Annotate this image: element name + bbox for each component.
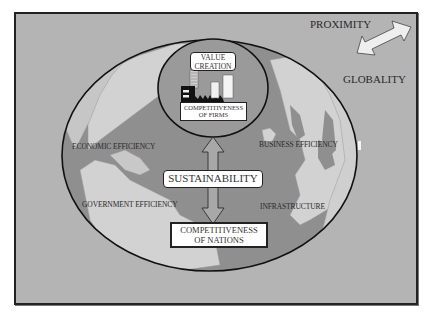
nations-line2: OF NATIONS	[172, 236, 266, 246]
value-creation-box: VALUE CREATION	[190, 52, 236, 71]
economic-efficiency-label: ECONOMIC EFFICIENCY	[72, 142, 155, 151]
business-efficiency-label: BUSINESS EFFICIENCY	[259, 140, 338, 149]
value-creation-line2: CREATION	[191, 63, 235, 72]
government-efficiency-label: GOVERNMENT EFFICIENCY	[82, 200, 177, 209]
globe-illustration	[0, 0, 432, 317]
infrastructure-label: INFRASTRUCTURE	[260, 202, 325, 211]
competitiveness-of-firms-box: COMPETITIVENESS OF FIRMS	[180, 102, 247, 121]
firms-line2: OF FIRMS	[181, 111, 246, 118]
globality-label: GLOBALITY	[343, 73, 406, 85]
competitiveness-of-nations-box: COMPETITIVENESS OF NATIONS	[170, 222, 268, 248]
sustainability-label: SUSTAINABILITY	[168, 172, 258, 184]
marker	[358, 141, 361, 150]
proximity-label: PROXIMITY	[310, 18, 371, 30]
sustainability-box: SUSTAINABILITY	[163, 170, 263, 188]
firms-line1: COMPETITIVENESS	[181, 104, 246, 111]
